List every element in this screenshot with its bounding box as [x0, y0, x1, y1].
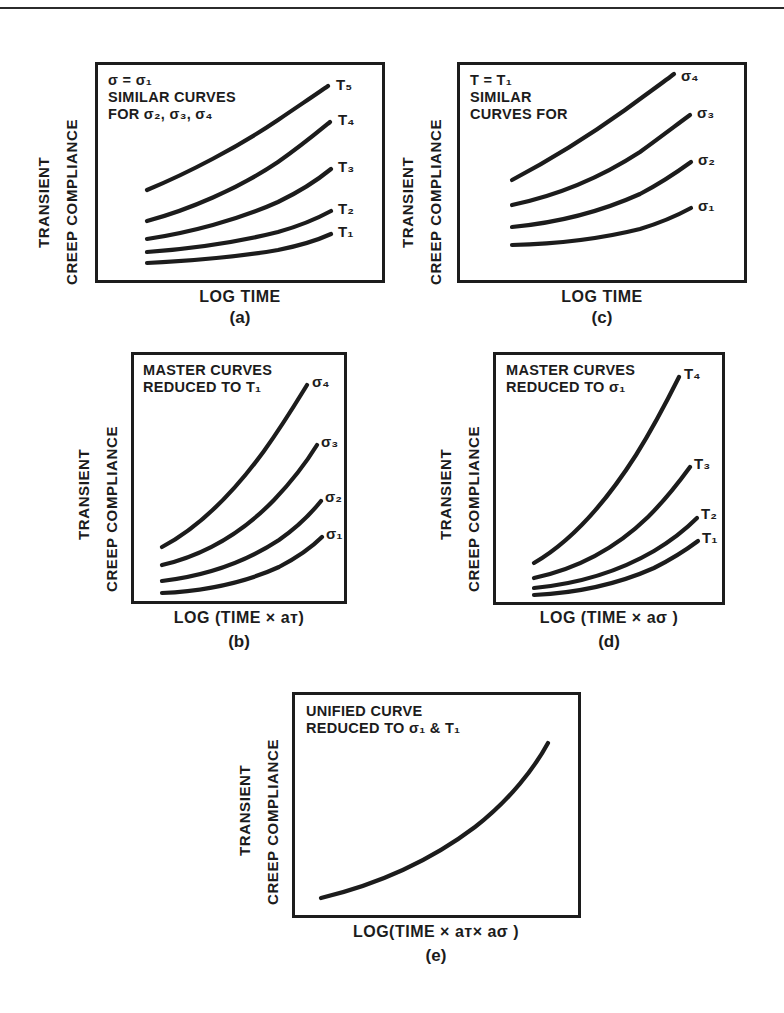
panel-b-plot-box: MASTER CURVES REDUCED TO T₁ σ₁ σ₂ σ₃ σ₄: [131, 352, 347, 604]
panel-c-label-sigma1: σ₁: [698, 197, 714, 214]
figure-root: TRANSIENT CREEP COMPLIANCE σ = σ₁ SIMILA…: [0, 0, 784, 1013]
panel-a-ylabel-transient: TRANSIENT: [36, 157, 51, 248]
panel-c-ylabel-transient: TRANSIENT: [400, 157, 415, 248]
panel-a-ylabel-creep-compliance: CREEP COMPLIANCE: [64, 119, 79, 285]
panel-e-ylabel-transient: TRANSIENT: [237, 765, 252, 856]
panel-d-label-T3: T₃: [694, 455, 710, 472]
panel-a-curve-T4: [147, 122, 330, 221]
panel-e-xlabel: LOG(TIME × aᴛ× aσ ): [276, 923, 596, 941]
panel-e-curve-unified: [321, 743, 548, 898]
panel-b-curve-sigma2: [162, 501, 321, 581]
panel-e-curves: [295, 695, 584, 921]
panel-c-curve-sigma4: [512, 74, 674, 180]
panel-b-ylabel-transient: TRANSIENT: [76, 449, 91, 540]
panel-a-plot-box: σ = σ₁ SIMILAR CURVES FOR σ₂, σ₃, σ₄ T₁ …: [95, 62, 385, 283]
panel-c-xlabel: LOG TIME: [457, 288, 747, 306]
panel-e-plot-box: UNIFIED CURVE REDUCED TO σ₁ & T₁: [292, 692, 581, 918]
panel-e-ylabel-creep-compliance: CREEP COMPLIANCE: [265, 739, 280, 905]
panel-d-label-T2: T₂: [701, 505, 717, 522]
panel-b-curves: [134, 355, 350, 607]
panel-d-curve-T4: [534, 377, 679, 563]
panel-b-label-sigma1: σ₁: [326, 525, 342, 542]
panel-a-label-T2: T₂: [338, 200, 354, 217]
panel-b-ylabel-creep-compliance: CREEP COMPLIANCE: [104, 426, 119, 592]
panel-a-xlabel: LOG TIME: [95, 288, 385, 306]
panel-a-label-T1: T₁: [338, 223, 353, 240]
panel-d-plot-box: MASTER CURVES REDUCED TO σ₁ T₁ T₂ T₃ T₄: [493, 352, 725, 605]
panel-b-caption: (b): [119, 632, 359, 652]
panel-c-curve-sigma1: [512, 208, 691, 245]
panel-a-label-T5: T₅: [336, 76, 352, 93]
panel-d-curves: [496, 355, 728, 608]
panel-b-curve-sigma4: [162, 385, 307, 547]
panel-b-label-sigma2: σ₂: [325, 488, 342, 505]
panel-c-label-sigma2: σ₂: [698, 151, 715, 168]
panel-c-ylabel-creep-compliance: CREEP COMPLIANCE: [428, 119, 443, 285]
panel-c-label-sigma4: σ₄: [681, 67, 698, 84]
panel-b-label-sigma3: σ₃: [321, 433, 338, 450]
panel-e-caption: (e): [276, 946, 596, 966]
panel-a-label-T4: T₄: [338, 111, 354, 128]
page-top-rule: [0, 7, 784, 9]
panel-c-caption: (c): [457, 308, 747, 328]
panel-a-caption: (a): [95, 308, 385, 328]
panel-b-xlabel: LOG (TIME × aᴛ): [119, 609, 359, 627]
panel-a-curve-T5: [147, 86, 328, 190]
panel-d-ylabel-transient: TRANSIENT: [438, 449, 453, 540]
panel-d-label-T4: T₄: [684, 365, 700, 382]
panel-d-xlabel: LOG (TIME × aσ ): [479, 609, 739, 627]
panel-c-label-sigma3: σ₃: [697, 104, 714, 121]
panel-a-label-T3: T₃: [338, 158, 354, 175]
panel-d-label-T1: T₁: [702, 529, 717, 546]
panel-d-caption: (d): [479, 632, 739, 652]
panel-c-plot-box: T = T₁ SIMILAR CURVES FOR σ₁ σ₂ σ₃ σ₄: [457, 62, 747, 283]
panel-d-curve-T2: [534, 518, 697, 588]
panel-d-ylabel-creep-compliance: CREEP COMPLIANCE: [466, 426, 481, 592]
panel-b-curve-sigma1: [162, 537, 322, 593]
panel-c-curves: [460, 65, 750, 286]
panel-b-curve-sigma3: [162, 445, 317, 565]
panel-a-curves: [98, 65, 388, 286]
panel-b-label-sigma4: σ₄: [312, 373, 329, 390]
